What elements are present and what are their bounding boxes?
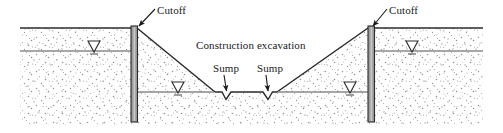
label-construction-excavation: Construction excavation: [196, 39, 306, 51]
label-cutoff-left: Cutoff: [157, 4, 186, 16]
leader-arrow-sump-right: [266, 75, 268, 91]
cross-section-drawing: [0, 0, 503, 133]
cutoff-wall-left: [131, 26, 138, 122]
label-sump-right: Sump: [257, 62, 283, 74]
label-cutoff-right: Cutoff: [389, 4, 418, 16]
leader-arrow-cutoff-left: [139, 9, 155, 26]
excavation-cross-section-figure: Cutoff Cutoff Construction excavation Su…: [0, 0, 503, 133]
leader-arrow-cutoff-right: [373, 9, 387, 26]
label-sump-left: Sump: [213, 62, 239, 74]
leader-arrow-sump-left: [224, 75, 227, 91]
cutoff-wall-right: [368, 26, 375, 122]
